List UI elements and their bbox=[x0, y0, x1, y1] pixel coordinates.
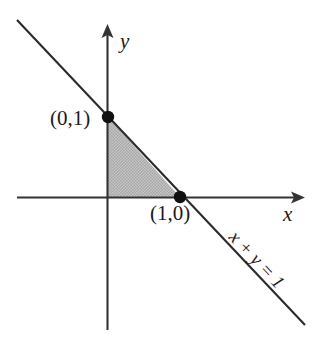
x-axis-label: x bbox=[282, 202, 293, 226]
geometry-figure: (0,1) (1,0) y x x + y = 1 bbox=[0, 0, 323, 354]
point-label-1-0: (1,0) bbox=[150, 201, 190, 225]
y-axis-label: y bbox=[118, 29, 130, 53]
point-label-0-1: (0,1) bbox=[50, 106, 90, 130]
point-dot-0-1 bbox=[102, 111, 114, 123]
line-equation-label: x + y = 1 bbox=[224, 226, 289, 293]
figure-canvas: (0,1) (1,0) y x x + y = 1 bbox=[0, 0, 323, 354]
